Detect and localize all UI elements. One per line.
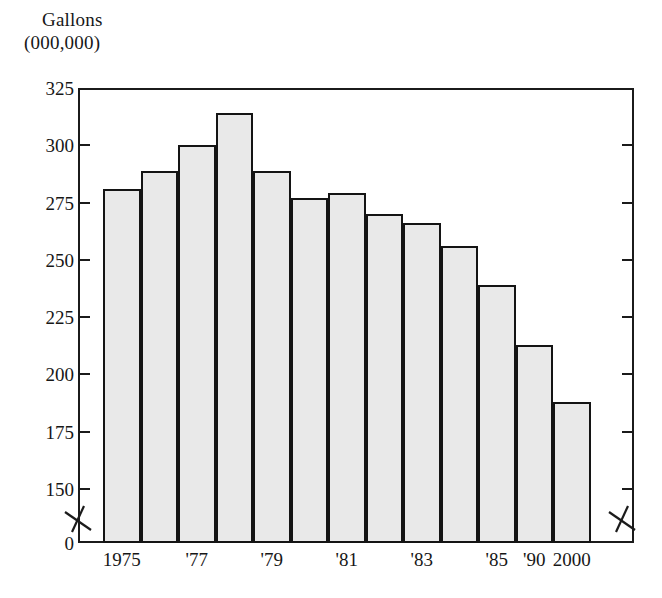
bar [516, 345, 554, 543]
y-axis-tick-mark [78, 488, 90, 490]
y-axis-tick-label: 200 [22, 365, 74, 384]
x-axis-tick-label: '90 [523, 549, 545, 571]
x-axis-tick-label: '77 [186, 549, 208, 571]
y-axis-tick-label: 250 [22, 250, 74, 269]
bar [328, 193, 366, 543]
y-axis-tick-mark [78, 202, 90, 204]
y-axis-tick-label: 325 [22, 79, 74, 98]
y-axis-tick-mark-right [622, 259, 634, 261]
axis-break-right-icon [606, 498, 640, 538]
y-axis-tick-label: 225 [22, 308, 74, 327]
bar [178, 145, 216, 543]
bar [103, 189, 141, 543]
y-axis-tick-mark-right [622, 144, 634, 146]
bar [403, 223, 441, 543]
x-axis-tick-label: 1975 [103, 549, 141, 571]
bar [441, 246, 479, 543]
x-axis-tick-label: '81 [336, 549, 358, 571]
y-axis-tick-mark-right [622, 202, 634, 204]
y-axis-tick-mark [78, 316, 90, 318]
y-axis-tick-label: 150 [22, 480, 74, 499]
y-axis-tick-mark [78, 259, 90, 261]
y-axis-tick-mark-right [622, 373, 634, 375]
y-axis-tick-label: 300 [22, 136, 74, 155]
bar [253, 171, 291, 544]
bar [366, 214, 404, 543]
y-axis-tick-mark-right [622, 316, 634, 318]
bar-chart: Gallons (000,000) 3253002752502252001751… [0, 0, 662, 598]
y-axis-tick-mark-right [622, 488, 634, 490]
bar [553, 402, 591, 543]
x-axis-tick-label: '79 [261, 549, 283, 571]
x-axis-tick-label: '83 [411, 549, 433, 571]
y-axis-tick-label: 175 [22, 422, 74, 441]
bar [291, 198, 329, 543]
axis-break-left-icon [62, 498, 96, 538]
bar [141, 171, 179, 544]
y-axis-tick-mark-right [622, 431, 634, 433]
bar-series [103, 88, 590, 543]
x-axis-tick-label: 2000 [553, 549, 591, 571]
y-axis-tick-mark [78, 373, 90, 375]
y-axis-tick-mark [78, 431, 90, 433]
y-axis-tick-label: 275 [22, 193, 74, 212]
bar [216, 113, 254, 543]
y-axis-tick-mark [78, 144, 90, 146]
bar [478, 285, 516, 543]
x-axis-tick-label: '85 [486, 549, 508, 571]
